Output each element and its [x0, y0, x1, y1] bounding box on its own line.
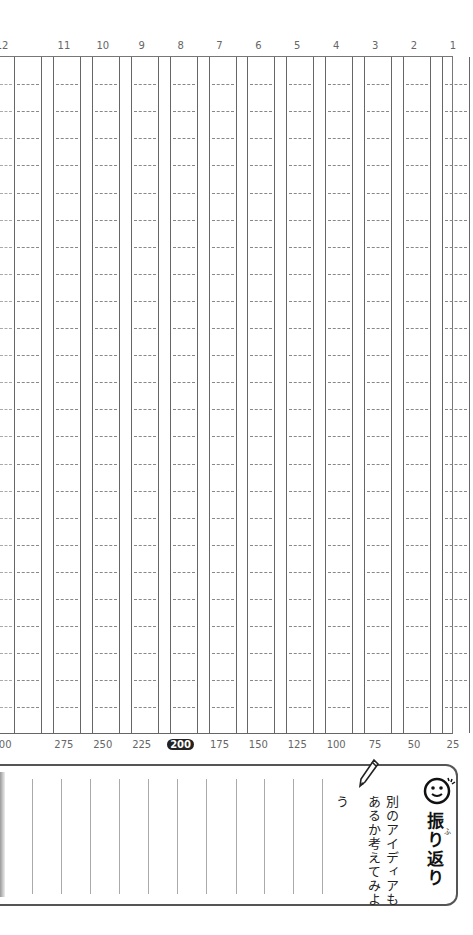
row-guide — [17, 111, 39, 112]
row-guide — [95, 572, 117, 573]
row-guide — [250, 220, 272, 221]
writing-line[interactable] — [322, 779, 323, 894]
row-guide — [367, 626, 389, 627]
row-guide — [445, 193, 467, 194]
grid-column[interactable] — [247, 57, 275, 733]
row-guide — [406, 680, 428, 681]
row-guide — [0, 355, 12, 356]
writing-line[interactable] — [206, 779, 207, 894]
row-guide — [134, 274, 156, 275]
char-count-marker: 250 — [88, 739, 118, 750]
row-guide — [173, 599, 195, 600]
row-guide — [173, 138, 195, 139]
row-guide — [250, 653, 272, 654]
row-guide — [328, 409, 350, 410]
row-guide — [212, 572, 234, 573]
row-guide — [173, 84, 195, 85]
row-guide — [328, 572, 350, 573]
row-guide — [406, 653, 428, 654]
writing-line[interactable] — [32, 779, 33, 894]
grid-column[interactable] — [131, 57, 159, 733]
writing-line[interactable] — [236, 779, 237, 894]
row-guide — [0, 84, 12, 85]
grid-column[interactable] — [14, 57, 42, 733]
grid-column[interactable] — [364, 57, 392, 733]
row-guide — [367, 247, 389, 248]
row-guide — [367, 436, 389, 437]
grid-column[interactable] — [209, 57, 237, 733]
row-guide — [212, 518, 234, 519]
row-guide — [17, 707, 39, 708]
row-guide — [95, 247, 117, 248]
row-guide — [445, 707, 467, 708]
row-guide — [17, 491, 39, 492]
row-guide — [406, 491, 428, 492]
row-guide — [17, 599, 39, 600]
row-guide — [0, 572, 12, 573]
grid-column[interactable] — [442, 57, 470, 733]
row-guide — [289, 653, 311, 654]
row-guide — [367, 653, 389, 654]
row-guide — [17, 572, 39, 573]
row-guide — [212, 464, 234, 465]
row-guide — [328, 464, 350, 465]
row-guide — [328, 165, 350, 166]
grid-column[interactable] — [92, 57, 120, 733]
row-guide — [17, 464, 39, 465]
row-guide — [0, 491, 12, 492]
row-guide — [289, 274, 311, 275]
row-guide — [173, 680, 195, 681]
char-count-marker: 300 — [0, 739, 17, 750]
row-guide — [95, 165, 117, 166]
row-guide — [250, 409, 272, 410]
row-guide — [250, 599, 272, 600]
row-guide — [134, 599, 156, 600]
row-guide — [289, 138, 311, 139]
grid-column[interactable] — [403, 57, 431, 733]
row-guide — [56, 409, 78, 410]
row-guide — [406, 301, 428, 302]
row-guide — [212, 409, 234, 410]
row-guide — [173, 355, 195, 356]
row-guide — [367, 301, 389, 302]
writing-line[interactable] — [264, 779, 265, 894]
row-guide — [212, 599, 234, 600]
row-guide — [367, 518, 389, 519]
row-guide — [445, 680, 467, 681]
row-guide — [445, 111, 467, 112]
grid-column[interactable] — [170, 57, 198, 733]
row-guide — [56, 464, 78, 465]
row-guide — [445, 653, 467, 654]
row-guide — [173, 328, 195, 329]
row-guide — [134, 545, 156, 546]
writing-line[interactable] — [177, 779, 178, 894]
column-number: 8 — [166, 40, 196, 51]
row-guide — [212, 84, 234, 85]
row-guide — [445, 274, 467, 275]
writing-line[interactable] — [119, 779, 120, 894]
writing-line[interactable] — [61, 779, 62, 894]
row-guide — [250, 274, 272, 275]
manuscript-grid — [0, 56, 453, 734]
row-guide — [95, 436, 117, 437]
row-guide — [56, 599, 78, 600]
row-guide — [406, 84, 428, 85]
grid-column[interactable] — [325, 57, 353, 733]
row-guide — [406, 707, 428, 708]
row-guide — [212, 545, 234, 546]
row-guide — [212, 165, 234, 166]
row-guide — [367, 328, 389, 329]
row-guide — [0, 653, 12, 654]
row-guide — [367, 572, 389, 573]
writing-line[interactable] — [293, 779, 294, 894]
row-guide — [289, 247, 311, 248]
row-guide — [445, 518, 467, 519]
row-guide — [95, 626, 117, 627]
writing-line[interactable] — [148, 779, 149, 894]
writing-line[interactable] — [90, 779, 91, 894]
row-guide — [17, 436, 39, 437]
row-guide — [56, 518, 78, 519]
row-guide — [0, 301, 12, 302]
grid-column[interactable] — [286, 57, 314, 733]
grid-column[interactable] — [53, 57, 81, 733]
